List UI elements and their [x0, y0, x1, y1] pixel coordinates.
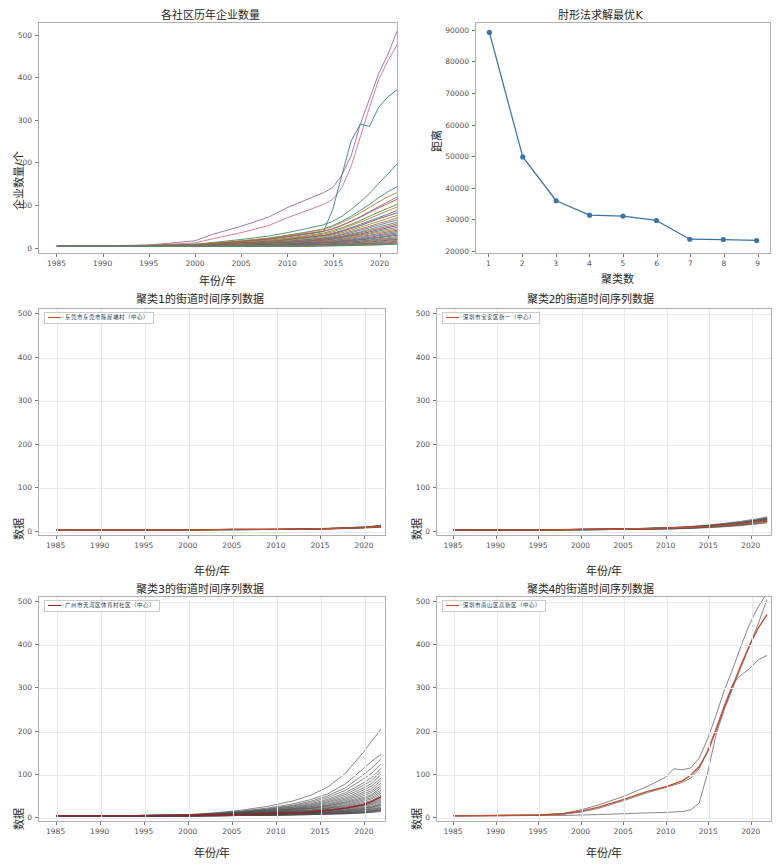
- y-tick-mark: [472, 61, 475, 62]
- x-tick-label: 1985: [46, 827, 65, 836]
- y-tick-mark: [35, 487, 38, 488]
- x-tick-mark: [232, 822, 233, 825]
- x-tick-label: 2010: [656, 541, 675, 550]
- x-axis-label-cluster1: 年份/年: [38, 562, 386, 578]
- x-tick-mark: [380, 254, 381, 257]
- x-tick-mark: [522, 254, 523, 257]
- x-tick-label: 2005: [222, 827, 241, 836]
- y-tick-mark: [35, 644, 38, 645]
- gridline-vertical: [497, 309, 498, 535]
- gridline-horizontal: [437, 445, 771, 446]
- gridline-vertical: [582, 309, 583, 535]
- gridline-vertical: [454, 597, 455, 821]
- x-tick-mark: [657, 254, 658, 257]
- y-tick-mark: [35, 774, 38, 775]
- y-tick-label: 100: [0, 483, 32, 492]
- y-tick-label: 100: [0, 769, 32, 778]
- x-tick-mark: [589, 254, 590, 257]
- gridline-vertical: [667, 309, 668, 535]
- y-tick-label: 200: [0, 726, 32, 735]
- x-tick-mark: [276, 822, 277, 825]
- x-tick-label: 2000: [571, 827, 590, 836]
- x-tick-label: 2015: [310, 541, 329, 550]
- x-tick-label: 1985: [443, 541, 462, 550]
- x-tick-mark: [623, 536, 624, 539]
- gridline-vertical: [365, 597, 366, 821]
- x-tick-label: 1: [486, 259, 491, 268]
- x-tick-mark: [56, 536, 57, 539]
- x-tick-mark: [758, 254, 759, 257]
- x-tick-mark: [538, 536, 539, 539]
- gridline-horizontal: [437, 818, 771, 819]
- y-tick-label: 500: [400, 309, 430, 318]
- x-tick-mark: [56, 822, 57, 825]
- legend-label-cluster3: 广州市天河区体育村社区（中心）: [65, 603, 155, 609]
- gridline-vertical: [582, 597, 583, 821]
- x-tick-mark: [100, 536, 101, 539]
- legend-cluster1[interactable]: 东莞市东莞市陈屋埔村（中心）: [44, 312, 154, 324]
- x-tick-label: 1995: [139, 259, 158, 268]
- y-tick-label: 0: [0, 812, 32, 821]
- gridline-horizontal: [39, 732, 385, 733]
- y-tick-label: 500: [0, 597, 32, 606]
- x-tick-label: 2005: [614, 827, 633, 836]
- x-tick-mark: [144, 822, 145, 825]
- panel-cluster4: 聚类4的街道时间序列数据 数据 年份/年 深圳市南山区高新区（中心） 19851…: [400, 580, 781, 864]
- y-tick-mark: [472, 188, 475, 189]
- y-tick-label: 100: [400, 483, 430, 492]
- x-tick-label: 2015: [699, 827, 718, 836]
- gridline-vertical: [321, 309, 322, 535]
- x-axis-label-enterprises: 年份/年: [40, 272, 395, 288]
- legend-label-cluster4: 深圳市南山区高新区（中心）: [463, 603, 541, 609]
- gridline-vertical: [189, 597, 190, 821]
- gridline-vertical: [624, 597, 625, 821]
- elbow-curve: [476, 23, 770, 253]
- x-tick-mark: [232, 536, 233, 539]
- y-tick-label: 300: [400, 683, 430, 692]
- y-tick-mark: [433, 774, 436, 775]
- legend-cluster2[interactable]: 深圳市宝安区新一（中心）: [442, 312, 540, 324]
- gridline-vertical: [145, 597, 146, 821]
- y-tick-mark: [35, 817, 38, 818]
- x-tick-label: 2010: [656, 827, 675, 836]
- x-tick-label: 2000: [178, 541, 197, 550]
- y-tick-label: 50000: [420, 152, 469, 161]
- panel-cluster3: 聚类3的街道时间序列数据 数据 年份/年 广州市天河区体育村社区（中心） 198…: [0, 580, 400, 864]
- gridline-horizontal: [39, 358, 385, 359]
- x-tick-mark: [188, 822, 189, 825]
- y-tick-label: 300: [400, 396, 430, 405]
- y-tick-label: 0: [400, 526, 430, 535]
- x-tick-mark: [276, 536, 277, 539]
- x-tick-label: 2000: [571, 541, 590, 550]
- y-tick-label: 60000: [420, 120, 469, 129]
- y-tick-mark: [472, 156, 475, 157]
- x-tick-label: 4: [587, 259, 592, 268]
- y-tick-mark: [35, 205, 38, 206]
- x-tick-mark: [708, 536, 709, 539]
- gridline-vertical: [233, 597, 234, 821]
- gridline-vertical: [752, 309, 753, 535]
- x-tick-label: 1985: [443, 827, 462, 836]
- x-tick-mark: [320, 822, 321, 825]
- x-tick-label: 2000: [185, 259, 204, 268]
- y-tick-label: 200: [400, 726, 430, 735]
- legend-color-swatch-cluster2: [446, 317, 459, 318]
- x-tick-label: 2005: [232, 259, 251, 268]
- panel-elbow: 肘形法求解最优K 距离 聚类数 123456789200003000040000…: [420, 0, 781, 290]
- gridline-vertical: [145, 309, 146, 535]
- y-tick-label: 70000: [420, 89, 469, 98]
- y-tick-mark: [35, 120, 38, 121]
- x-tick-label: 1985: [47, 259, 66, 268]
- x-tick-mark: [100, 822, 101, 825]
- legend-cluster3[interactable]: 广州市天河区体育村社区（中心）: [44, 600, 160, 612]
- gridline-vertical: [233, 309, 234, 535]
- legend-cluster4[interactable]: 深圳市南山区高新区（中心）: [442, 600, 546, 612]
- x-tick-label: 2010: [266, 541, 285, 550]
- x-tick-label: 1995: [134, 541, 153, 550]
- x-tick-mark: [320, 536, 321, 539]
- y-tick-mark: [35, 531, 38, 532]
- y-tick-label: 0: [400, 812, 430, 821]
- gridline-vertical: [497, 597, 498, 821]
- y-tick-mark: [433, 817, 436, 818]
- y-tick-label: 40000: [420, 183, 469, 192]
